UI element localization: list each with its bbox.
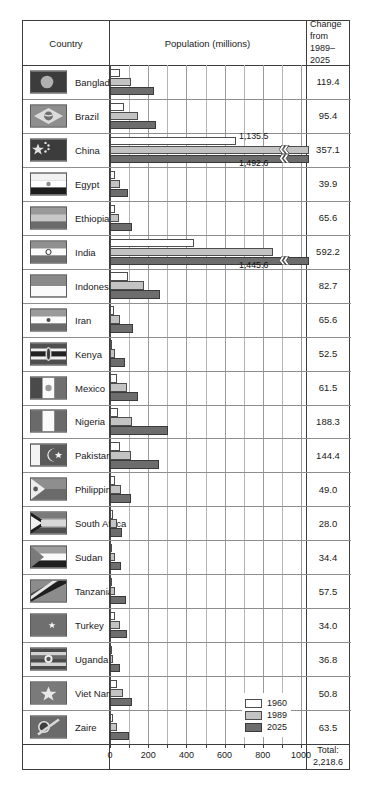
bar-group [109,235,306,269]
bar-break-marker [279,256,290,265]
table-row[interactable]: China357.1 [23,133,351,167]
flag-sudan-icon [30,546,67,569]
bar-value-label: 1,492.6 [239,158,268,168]
header-change-line1: Change [310,19,350,31]
header-change-line3: 1989–2025 [310,43,350,67]
table-row[interactable]: Ethiopia65.6 [23,201,351,235]
flag-bangladesh-icon [30,70,67,93]
bar-group [109,506,306,540]
table-row[interactable]: Philippines49.0 [23,472,351,506]
bar-1960 [110,544,112,552]
axis-tick-label-600: 600 [217,750,232,760]
table-row[interactable]: South Africa28.0 [23,506,351,540]
change-value: 34.0 [306,608,350,642]
table-row[interactable]: Turkey34.0 [23,608,351,642]
table-row[interactable]: Indonesia82.7 [23,269,351,303]
country-cell: Viet Nam [23,676,109,710]
table-row[interactable]: Kenya52.5 [23,337,351,371]
axis-tick-100 [129,744,130,748]
flag-ethiopia-icon [30,206,67,229]
bar-2025 [110,630,127,638]
bar-1989 [110,78,131,86]
bar-group [109,472,306,506]
bar-2025 [110,324,133,332]
table-row[interactable]: Sudan34.4 [23,540,351,574]
country-label: Tanzania [75,586,113,597]
flag-pakistan-icon [30,444,67,467]
table-row[interactable]: Zaire63.5 [23,710,351,744]
country-cell: China [23,133,109,167]
axis-tick-900 [282,744,283,748]
table-row[interactable]: Mexico61.5 [23,371,351,405]
bar-1960 [110,646,112,654]
legend-label-1989: 1989 [267,710,287,720]
change-value: 39.9 [306,167,350,201]
bar-1960 [110,510,113,518]
bar-group [109,608,306,642]
bar-1960 [110,137,236,145]
legend-item-1989: 1989 [245,710,287,720]
bar-group [109,133,306,167]
table-row[interactable]: Uganda36.8 [23,642,351,676]
country-cell: Pakistan [23,438,109,472]
bar-2025 [110,460,159,468]
bar-1960 [110,205,115,213]
bar-group [109,269,306,303]
table-row[interactable]: Tanzania57.5 [23,574,351,608]
change-value: 61.5 [306,371,350,405]
flag-china-icon [30,138,67,161]
table-row[interactable]: Brazil95.4 [23,99,351,133]
table-row[interactable]: Viet Nam50.8 [23,676,351,710]
country-label: Egypt [75,178,99,189]
bar-1989 [110,655,113,663]
bar-1989 [110,417,132,425]
bar-1989 [110,349,115,357]
table-row[interactable]: Iran65.6 [23,303,351,337]
table-row[interactable]: Nigeria188.3 [23,405,351,439]
axis-tick-300 [167,744,168,748]
country-label: Mexico [75,382,105,393]
legend-label-2025: 2025 [267,722,287,732]
bar-2025 [110,223,132,231]
country-cell: Kenya [23,337,109,371]
flag-uganda-icon [30,648,67,671]
country-cell: Nigeria [23,405,109,439]
legend-item-1960: 1960 [245,698,287,708]
table-row[interactable]: Egypt39.9 [23,167,351,201]
axis-tick-label-0: 0 [107,750,112,760]
header-country: Country [23,21,109,65]
bar-value-label: 1,135.5 [239,131,268,141]
country-cell: Iran [23,303,109,337]
axis-tick-label-400: 400 [179,750,194,760]
axis-tick-400 [186,744,187,748]
change-value: 34.4 [306,540,350,574]
change-value: 63.5 [306,710,350,744]
bar-1989 [110,315,120,323]
country-label: Nigeria [75,416,105,427]
bar-1960 [110,680,117,688]
bar-2025 [110,732,129,740]
country-cell: Sudan [23,540,109,574]
table-row[interactable]: Pakistan144.4 [23,438,351,472]
axis-tick-500 [206,744,207,748]
table-row[interactable]: Bangladesh119.4 [23,65,351,99]
total-box: Total: 2,218.6 [306,744,350,770]
flag-iran-icon [30,308,67,331]
bar-2025 [110,358,125,366]
change-value: 188.3 [306,405,350,439]
total-value: 2,218.6 [313,757,343,769]
flag-philippines-icon [30,478,67,501]
flag-tanzania-icon [30,580,67,603]
flag-south-africa-icon [30,512,67,535]
bar-2025 [110,664,120,672]
table-row[interactable]: India592.2 [23,235,351,269]
bar-2025 [110,494,131,502]
country-label: Uganda [75,654,108,665]
axis-tick-600 [225,744,226,748]
bar-1989 [110,112,138,120]
bar-2025 [110,596,126,604]
change-value: 357.1 [306,133,350,167]
header-change: Change from 1989–2025 [306,21,350,65]
change-value: 36.8 [306,642,350,676]
bar-1960 [110,239,194,247]
